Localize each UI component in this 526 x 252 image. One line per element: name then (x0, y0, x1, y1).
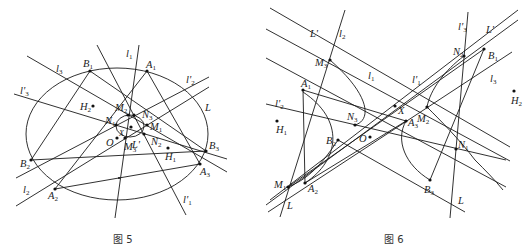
label-line-l-prime: L' (131, 139, 141, 150)
point-b3 (204, 149, 207, 152)
point-h1 (166, 146, 169, 149)
label-n3: N3 (141, 109, 153, 122)
side-b2-b3 (31, 151, 206, 160)
label-o: O (359, 133, 367, 144)
label-a3: A3 (199, 166, 210, 179)
point-h2 (512, 89, 515, 92)
label-x: X (118, 129, 125, 138)
point-o (368, 135, 371, 138)
label-line-l2: l2 (339, 28, 346, 41)
point-m1 (145, 123, 148, 126)
geometry-diagrams: B1 A1 B2 A2 B3 A3 H1 H2 O X M1 M2 M3 N1 … (0, 0, 526, 252)
label-m1: M1 (273, 179, 287, 192)
side-a2-a3 (305, 121, 406, 183)
point-h2 (91, 104, 94, 107)
point-x (129, 125, 132, 128)
label-m2: M2 (114, 102, 128, 115)
label-line-l3: l3 (56, 63, 63, 76)
label-b1: B1 (83, 58, 93, 71)
label-m1: M1 (149, 121, 163, 134)
label-n1: N1 (104, 115, 116, 128)
point-m2 (425, 105, 428, 108)
point-b1 (482, 47, 485, 50)
label-n2: N2 (452, 46, 464, 59)
label-h2: H2 (510, 95, 523, 108)
side-b1-b2 (31, 71, 90, 160)
point-b2 (336, 138, 339, 141)
label-b2: B2 (326, 135, 336, 148)
point-n3 (132, 113, 135, 116)
label-line-l2: l2 (23, 184, 30, 197)
point-m1 (286, 185, 289, 188)
label-line-l-prime-1: l'1 (412, 74, 421, 87)
caption-figure-5: 图 5 (113, 234, 133, 245)
label-h2: H2 (79, 101, 92, 114)
point-x (393, 104, 396, 107)
line-l1 (266, 29, 510, 161)
side-a2-a3 (55, 164, 200, 189)
label-line-l-prime-right: L' (485, 24, 495, 35)
label-line-l-prime-left: L' (309, 28, 319, 39)
line-l-prime-3 (450, 12, 468, 218)
figure-5: B1 A1 B2 A2 B3 A3 H1 H2 O X M1 M2 M3 N1 … (14, 45, 227, 245)
label-n2: N2 (150, 136, 162, 149)
label-b1: B1 (488, 50, 498, 63)
label-h1: H1 (275, 124, 288, 137)
label-line-l-prime-1: l'1 (183, 194, 192, 207)
label-b3: B3 (209, 140, 219, 153)
point-b3 (428, 178, 431, 181)
point-a2 (303, 181, 306, 184)
label-line-big-l: L (204, 102, 211, 113)
label-line-big-l-right: L (457, 195, 464, 206)
label-x: X (397, 105, 405, 116)
figure-6: A1 A2 A3 B1 B2 B3 M1 M2 M3 N1 N2 N3 H1 H… (266, 8, 523, 245)
label-b3: B3 (424, 184, 434, 197)
label-m2: M2 (416, 113, 430, 126)
label-a2: A2 (307, 183, 318, 196)
label-m3: M3 (314, 57, 328, 70)
point-midpoint (118, 177, 120, 179)
label-line-l-prime-2: l'2 (275, 98, 284, 111)
point-b2 (29, 158, 32, 161)
label-line-l1: l1 (126, 48, 133, 61)
label-o: O (106, 137, 114, 148)
label-b2: B2 (20, 158, 30, 171)
label-n3: N3 (346, 111, 358, 124)
label-line-l-prime-2: l'2 (186, 74, 195, 87)
point-m3 (328, 58, 331, 61)
line-l3 (268, 52, 512, 212)
label-line-l-prime-3: l'3 (458, 21, 467, 34)
label-a2: A2 (47, 190, 58, 203)
label-line-l3: l3 (490, 73, 497, 86)
side-a1-a2 (303, 90, 305, 183)
label-line-big-l-left: L (286, 200, 293, 211)
caption-figure-6: 图 6 (384, 234, 404, 245)
line-l-prime-2 (266, 104, 506, 160)
label-line-l1: l1 (368, 70, 375, 83)
point-h1 (275, 119, 278, 122)
point-n2 (142, 132, 145, 135)
